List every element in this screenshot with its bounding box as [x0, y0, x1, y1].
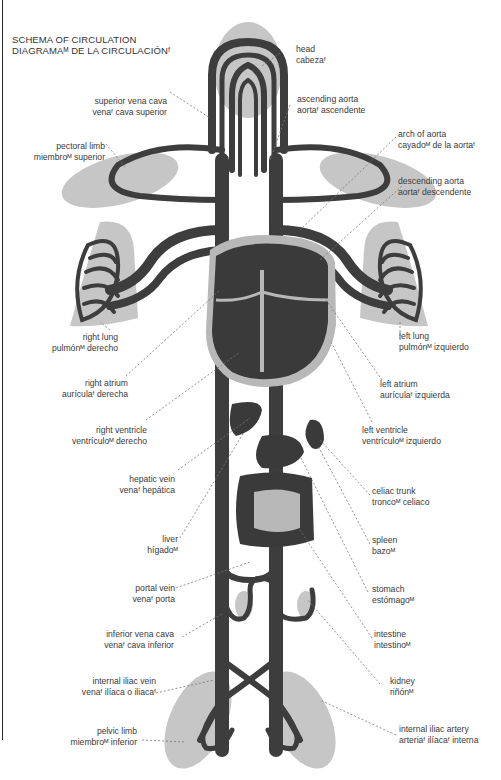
label-inferior-vena-cava: inferior vena cavavenaᶠ cava inferior: [104, 629, 174, 650]
label-right-atrium: right atriumaurículaᶠ derecha: [62, 378, 128, 399]
intestine-interior: [254, 489, 300, 532]
label-arch-of-aorta: arch of aortacayadoᴹ de la aortaᶠ: [398, 129, 475, 150]
label-right-lung: right lungpulmónᴹ derecho: [52, 332, 118, 353]
heart: [206, 235, 336, 387]
label-intestine: intestineintestinoᴹ: [374, 629, 410, 650]
label-kidney: kidneyriñónᴹ: [390, 676, 415, 697]
label-celiac-trunk: celiac trunktroncoᴹ celiaco: [372, 486, 429, 507]
label-head: headcabezaᶠ: [296, 44, 326, 65]
liver: [230, 402, 262, 436]
label-internal-iliac-artery: internal iliac arteryarteriaᶠ ilíacaᶠ in…: [399, 724, 478, 745]
shaded-regions: [56, 22, 442, 779]
label-internal-iliac-vein: internal iliac veinvenaᶠ ilíaca o iliaca…: [82, 676, 156, 697]
left-pelvic-region: [255, 661, 350, 779]
label-hepatic-vein: hepatic veinvenaᶠ hepática: [120, 474, 175, 495]
label-superior-vena-cava: superior vena cavavenaᶠ cava superior: [92, 96, 167, 117]
label-portal-vein: portal veinvenaᶠ porta: [132, 583, 175, 604]
label-pectoral-limb: pectoral limbmiembroᴹ superior: [34, 141, 105, 162]
label-stomach: stomachestómagoᴹ: [372, 584, 414, 605]
spleen: [305, 420, 324, 449]
label-left-ventricle: left ventricleventrículoᴹ izquierdo: [362, 425, 441, 446]
stomach: [256, 435, 304, 468]
label-pelvic-limb: pelvic limbmiembroᴹ inferior: [71, 726, 137, 747]
label-descending-aorta: descending aortaaortaᶠ descendente: [398, 176, 471, 197]
label-left-atrium: left atriumaurículaᶠ izquierda: [380, 379, 450, 400]
right-pelvic-region: [151, 661, 246, 779]
label-spleen: spleenbazoᴹ: [372, 535, 397, 556]
label-ascending-aorta: ascending aortaaortaᶠ ascendente: [297, 94, 365, 115]
label-liver: liverhígadoᴹ: [147, 534, 178, 555]
label-right-ventricle: right ventricleventrículoᴹ derecho: [72, 425, 147, 446]
label-left-lung: left lungpulmónᴹ izquierdo: [399, 331, 469, 352]
